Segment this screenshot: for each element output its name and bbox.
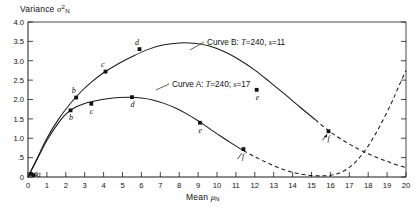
data-point-label: e xyxy=(256,93,260,102)
curve-b-annotation: Curve B: T=240, s=11 xyxy=(207,38,286,47)
data-point-marker xyxy=(130,95,134,99)
x-axis-tick-label: 6 xyxy=(139,181,143,190)
x-axis-tick-label: 1 xyxy=(45,181,49,190)
data-point-label: d xyxy=(130,100,135,109)
x-axis-tick-label: 9 xyxy=(196,181,200,190)
data-point-marker xyxy=(327,129,331,133)
curve-b-dashed xyxy=(315,120,406,168)
x-axis-tick-label: 15 xyxy=(307,181,315,190)
data-point-marker xyxy=(138,47,142,51)
x-axis-tick-label: 8 xyxy=(177,181,181,190)
curve-a-dashed xyxy=(243,70,406,175)
data-point-label: a xyxy=(37,170,41,179)
x-axis-tick-label: 2 xyxy=(64,181,68,190)
x-axis-tick-label: 19 xyxy=(383,181,391,190)
data-point-marker xyxy=(74,96,78,100)
data-point-marker xyxy=(32,173,36,177)
data-point-marker xyxy=(104,70,108,74)
x-axis-tick-label: 16 xyxy=(326,181,334,190)
x-axis-tick-label: 10 xyxy=(213,181,221,190)
x-axis-tick-label: 14 xyxy=(288,181,296,190)
data-point-label: c xyxy=(101,60,105,69)
x-axis-tick-label: 18 xyxy=(364,181,372,190)
y-axis-tick-label: 1.5 xyxy=(13,115,24,124)
x-axis-tick-label: 7 xyxy=(158,181,162,190)
x-axis-tick-label: 20 xyxy=(402,181,410,190)
data-point-marker xyxy=(242,147,246,151)
x-axis-tick-label: 12 xyxy=(251,181,259,190)
y-axis-tick-label: 0 xyxy=(20,173,24,182)
plot-area: 012345678910111213141516171819200.51.01.… xyxy=(0,0,420,212)
data-point-label: c xyxy=(90,107,94,116)
x-axis-tick-label: 5 xyxy=(120,181,124,190)
data-point-label: b xyxy=(72,86,76,95)
data-point-label: b xyxy=(69,113,73,122)
x-axis-tick-label: 11 xyxy=(232,181,240,190)
x-axis-tick-label: 3 xyxy=(83,181,87,190)
y-axis-tick-label: 2.0 xyxy=(13,95,24,104)
y-axis-tick-label: 2.5 xyxy=(13,76,24,85)
y-axis-tick-label: .5 xyxy=(18,153,24,162)
curve-a-solid xyxy=(28,97,243,177)
x-axis-tick-label: 4 xyxy=(101,181,105,190)
data-point-marker xyxy=(89,102,93,106)
point-f-arrowhead xyxy=(324,134,327,137)
data-point-marker xyxy=(69,108,73,112)
x-axis-tick-label: 17 xyxy=(345,181,353,190)
y-axis-tick-label: 4.0 xyxy=(13,18,24,27)
curve-a-annotation: Curve A: T=240; s=17 xyxy=(172,80,251,89)
x-axis-tick-label: 13 xyxy=(269,181,277,190)
curve-a-leader xyxy=(156,84,169,90)
x-axis-tick-label: 0 xyxy=(26,181,30,190)
data-point-marker xyxy=(198,121,202,125)
data-point-label: f xyxy=(242,152,246,161)
y-axis-tick-label: 3.0 xyxy=(13,57,24,66)
variance-vs-mean-chart: Variance σ2N Mean μN 0123456789101112131… xyxy=(0,0,420,212)
data-point-label: e xyxy=(198,126,202,135)
data-point-label: f xyxy=(328,134,332,143)
data-point-marker xyxy=(255,88,259,92)
y-axis-tick-label: 3.5 xyxy=(13,37,24,46)
data-point-label: d xyxy=(135,38,140,47)
y-axis-tick-label: 1.0 xyxy=(13,134,24,143)
